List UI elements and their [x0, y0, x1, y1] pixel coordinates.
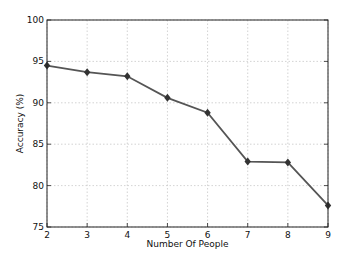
line-chart: 23456789 7580859095100 Number Of People … — [0, 0, 345, 262]
y-tick-label: 85 — [33, 139, 44, 149]
x-tick-label: 3 — [84, 230, 90, 240]
x-tick-label: 9 — [325, 230, 331, 240]
x-axis-label: Number Of People — [146, 239, 228, 249]
y-axis-ticks: 7580859095100 — [27, 15, 328, 232]
diamond-marker — [164, 94, 170, 102]
diamond-marker — [84, 68, 90, 76]
x-tick-label: 2 — [44, 230, 50, 240]
x-tick-label: 7 — [245, 230, 251, 240]
diamond-marker — [124, 72, 130, 80]
y-tick-label: 100 — [27, 15, 44, 25]
grid-lines — [47, 20, 328, 227]
x-tick-label: 4 — [124, 230, 130, 240]
x-axis-ticks: 23456789 — [44, 223, 331, 240]
y-tick-label: 95 — [33, 56, 44, 66]
y-tick-label: 90 — [33, 98, 45, 108]
x-tick-label: 8 — [285, 230, 291, 240]
series-line — [47, 66, 328, 206]
y-tick-label: 80 — [33, 181, 45, 191]
y-axis-label: Accuracy (%) — [15, 94, 25, 154]
y-tick-label: 75 — [33, 222, 44, 232]
plot-frame — [47, 20, 328, 227]
